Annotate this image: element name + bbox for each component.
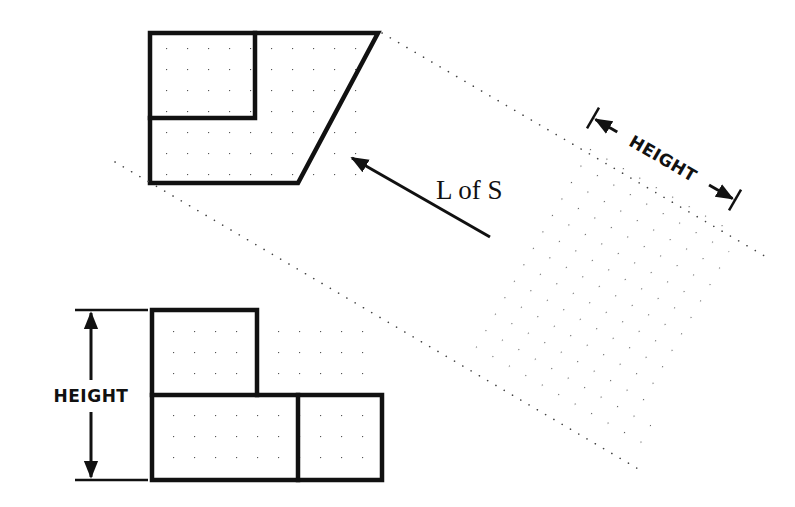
aux-dim-arrow-left xyxy=(596,120,618,133)
aux-extension-start xyxy=(587,108,599,129)
auxiliary-dot-field xyxy=(470,138,740,450)
aux-dim-arrow-right xyxy=(709,185,732,199)
front-height-label: HEIGHT xyxy=(54,386,129,406)
line-of-sight-label: L of S xyxy=(436,175,503,205)
line-of-sight: L of S xyxy=(352,158,503,237)
front-view xyxy=(152,310,382,480)
front-view-dot-field-lower xyxy=(160,400,375,475)
auxiliary-view xyxy=(470,138,740,450)
front-view-dot-field-upper xyxy=(160,318,382,393)
technical-drawing: L of S HEIGHT HEIGHT xyxy=(0,0,795,507)
top-view xyxy=(150,33,378,190)
aux-extension-end xyxy=(729,190,741,211)
front-height-dimension: HEIGHT xyxy=(54,310,148,480)
